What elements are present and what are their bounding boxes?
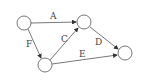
edge-label-e: E [79, 49, 86, 59]
edge-label-f: F [26, 39, 32, 49]
edge-label-c: C [61, 34, 68, 44]
edge-c [50, 28, 78, 60]
node-4 [118, 46, 132, 60]
node-1 [17, 16, 31, 30]
node-3 [38, 58, 52, 72]
node-2 [77, 15, 91, 29]
edge-label-d: D [95, 37, 102, 47]
edge-label-a: A [49, 11, 57, 21]
network-diagram: A F C D E [0, 0, 142, 82]
edge-a [31, 22, 76, 23]
diagram-svg: A F C D E [0, 0, 142, 82]
